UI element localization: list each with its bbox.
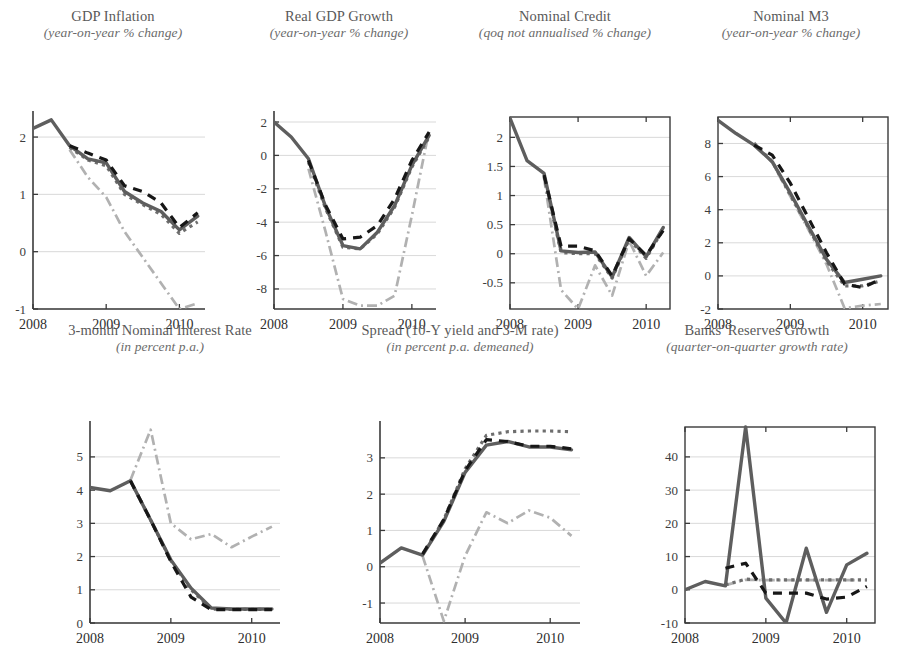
y-tick-label: 0: [672, 582, 679, 597]
panel-title: 3-month Nominal Interest Rate: [10, 322, 310, 339]
x-tick-label: 2009: [451, 631, 479, 646]
series-line-counterfactual: [423, 511, 572, 622]
x-tick-label: 2010: [536, 631, 564, 646]
y-tick-label: 2: [77, 549, 84, 564]
y-tick-label: 0: [261, 148, 268, 163]
x-tick-label: 2008: [76, 631, 104, 646]
panel-subtitle: (year-on-year % change): [0, 25, 226, 41]
x-tick-label: 2010: [238, 631, 266, 646]
series-line-counterfactual: [754, 143, 881, 309]
panel-subtitle: (in percent p.a. demeaned): [310, 339, 610, 355]
y-tick-label: -0.5: [482, 275, 503, 290]
plot-area: 012345200820092010: [10, 355, 310, 647]
y-tick-label: 4: [705, 202, 712, 217]
y-tick-label: 2: [261, 115, 268, 130]
panel-subtitle: (quarter-on-quarter growth rate): [610, 339, 904, 355]
y-tick-label: 0: [20, 244, 27, 259]
panel-subtitle: (year-on-year % change): [678, 25, 904, 41]
chart-panel-three-month-nominal-interest-rate: 3-month Nominal Interest Rate(in percent…: [10, 322, 310, 647]
panel-title: Spread (10-Y yield and 3-M rate): [310, 322, 610, 339]
y-tick-label: 3: [77, 516, 84, 531]
y-tick-label: 6: [705, 169, 712, 184]
panel-title: Banks' Reserves Growth: [610, 322, 904, 339]
y-tick-label: 0: [77, 616, 84, 631]
panel-title: Nominal Credit: [452, 8, 678, 25]
series-line-counterfactual: [130, 430, 271, 548]
panel-title: Real GDP Growth: [226, 8, 452, 25]
y-tick-label: 20: [665, 516, 678, 531]
y-tick-label: 2: [20, 130, 27, 145]
chart-panel-real-gdp-growth: Real GDP Growth(year-on-year % change)-8…: [226, 8, 452, 343]
y-tick-label: -8: [256, 281, 267, 296]
y-tick-label: -2: [700, 302, 711, 317]
y-tick-label: 0.5: [487, 217, 503, 232]
series-line-counterfactual: [308, 130, 429, 305]
y-tick-label: 4: [77, 483, 84, 498]
y-tick-label: 1: [367, 523, 374, 538]
x-tick-label: 2010: [833, 631, 861, 646]
x-tick-label: 2008: [366, 631, 394, 646]
y-tick-label: 0: [497, 246, 504, 261]
plot-area: -10010203040200820092010: [610, 355, 904, 647]
y-tick-label: 3: [367, 450, 374, 465]
y-tick-label: -10: [661, 616, 678, 631]
panel-title: GDP Inflation: [0, 8, 226, 25]
series-line-model-dashed: [130, 481, 271, 610]
y-tick-label: 1: [497, 188, 504, 203]
chart-panel-nominal-credit: Nominal Credit(qoq not annualised % chan…: [452, 8, 678, 343]
panel-subtitle: (year-on-year % change): [226, 25, 452, 41]
y-tick-label: 40: [665, 449, 678, 464]
panel-title: Nominal M3: [678, 8, 904, 25]
y-tick-label: -1: [15, 302, 26, 317]
chart-panel-nominal-m3: Nominal M3(year-on-year % change)-202468…: [678, 8, 904, 343]
y-tick-label: -1: [362, 596, 373, 611]
y-tick-label: 1.5: [487, 159, 503, 174]
plot-area: -1012200820092010: [0, 41, 226, 343]
y-tick-label: -2: [256, 181, 267, 196]
y-tick-label: 1: [20, 187, 27, 202]
y-tick-label: 8: [705, 136, 712, 151]
panel-subtitle: (in percent p.a.): [10, 339, 310, 355]
series-line-actual: [274, 122, 429, 249]
plot-area: -202468200820092010: [678, 41, 904, 343]
chart-panel-gdp-inflation: GDP Inflation(year-on-year % change)-101…: [0, 8, 226, 343]
y-tick-label: -4: [256, 215, 267, 230]
panel-subtitle: (qoq not annualised % change): [452, 25, 678, 41]
series-line-actual: [380, 442, 571, 564]
series-line-actual: [718, 120, 881, 282]
y-tick-label: 0: [705, 268, 712, 283]
series-line-model-dashed: [544, 175, 663, 276]
plot-area: -10123200820092010: [310, 355, 610, 647]
y-tick-label: 2: [705, 235, 712, 250]
plot-area: -0.500.511.52200820092010: [452, 41, 678, 343]
plot-area: -8-6-4-202200820092010: [226, 41, 452, 343]
y-tick-label: 0: [367, 559, 374, 574]
y-tick-label: 5: [77, 449, 84, 464]
y-tick-label: 2: [367, 487, 374, 502]
y-tick-label: 30: [665, 483, 678, 498]
y-tick-label: 10: [665, 549, 678, 564]
y-tick-label: -6: [256, 248, 267, 263]
x-tick-label: 2009: [752, 631, 780, 646]
chart-panel-spread: Spread (10-Y yield and 3-M rate)(in perc…: [310, 322, 610, 647]
series-line-model-dashed: [423, 440, 572, 554]
y-tick-label: 1: [77, 582, 84, 597]
x-tick-label: 2009: [157, 631, 185, 646]
x-tick-label: 2008: [671, 631, 699, 646]
chart-panel-banks-reserves-growth: Banks' Reserves Growth(quarter-on-quarte…: [610, 322, 904, 647]
y-tick-label: 2: [497, 130, 504, 145]
series-line-model-dotted: [423, 431, 572, 555]
